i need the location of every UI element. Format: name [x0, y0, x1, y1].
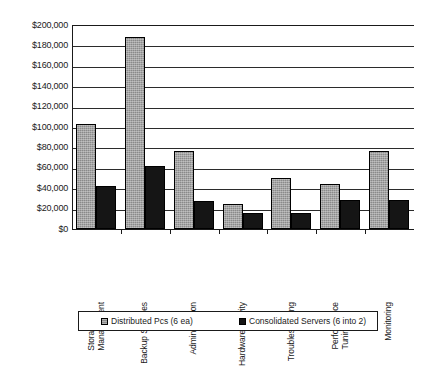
x-axis-category-label-line: Monitoring — [384, 302, 394, 341]
bar — [76, 124, 96, 229]
legend-swatch-icon — [239, 318, 246, 325]
bar — [125, 37, 145, 229]
bar — [340, 200, 360, 229]
bar — [223, 204, 243, 230]
bar-group — [223, 25, 263, 229]
y-axis-tick-label: $80,000 — [2, 143, 68, 152]
bar — [291, 213, 311, 229]
bar-group — [320, 25, 360, 229]
bar — [145, 166, 165, 229]
legend-swatch-icon — [101, 318, 108, 325]
bar — [194, 201, 214, 229]
legend-label: Consolidated Servers (6 into 2) — [249, 316, 366, 326]
y-axis-tick-label: $0 — [2, 225, 68, 234]
bars-layer — [72, 25, 414, 229]
y-axis-tick-label: $160,000 — [2, 61, 68, 70]
y-axis-tick-label: $180,000 — [2, 41, 68, 50]
bar — [174, 151, 194, 229]
bar — [271, 178, 291, 229]
legend-entry-consolidated-servers: Consolidated Servers (6 into 2) — [239, 316, 366, 326]
legend: Distributed Pcs (6 ea) Consolidated Serv… — [78, 311, 378, 331]
bar — [243, 213, 263, 229]
legend-entry-distributed-pcs: Distributed Pcs (6 ea) — [101, 316, 193, 326]
legend-label: Distributed Pcs (6 ea) — [111, 316, 193, 326]
bar-group — [271, 25, 311, 229]
bar-group — [174, 25, 214, 229]
bar — [369, 151, 389, 229]
bar — [96, 186, 116, 229]
bar — [389, 200, 409, 229]
bar-group — [125, 25, 165, 229]
x-axis-labels: StorageManagementBackup ServicesAdminist… — [72, 234, 414, 306]
bar-group — [76, 25, 116, 229]
y-axis-tick-label: $60,000 — [2, 163, 68, 172]
y-axis-tick-label: $120,000 — [2, 102, 68, 111]
y-axis-tick-label: $100,000 — [2, 123, 68, 132]
y-axis-tick-label: $40,000 — [2, 184, 68, 193]
bar — [320, 184, 340, 229]
x-axis-category-label: Monitoring — [384, 302, 394, 341]
y-axis-tick-label: $200,000 — [2, 21, 68, 30]
y-axis-tick-label: $20,000 — [2, 204, 68, 213]
y-axis-tick-label: $140,000 — [2, 82, 68, 91]
y-axis-labels: $200,000$180,000$160,000$140,000$120,000… — [0, 0, 68, 344]
bar-group — [369, 25, 409, 229]
